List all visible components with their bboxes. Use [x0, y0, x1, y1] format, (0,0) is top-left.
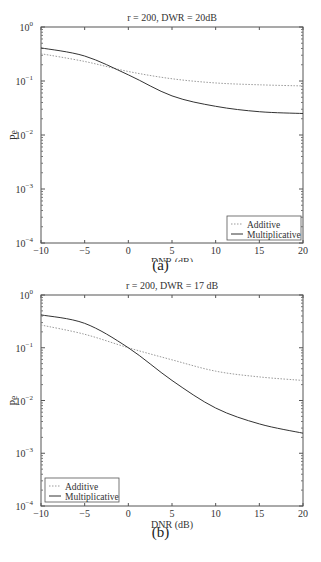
x-tick-label: 10: [211, 245, 221, 256]
y-tick-label: 10−4: [16, 236, 34, 249]
x-tick-label: −10: [33, 245, 49, 256]
y-axis-label: Pe: [8, 129, 19, 140]
chart-a: r = 200, DWR = 20dB−10−50510152010010−11…: [0, 0, 321, 262]
caption-b: (b): [0, 524, 321, 541]
x-tick-label: 15: [254, 508, 264, 519]
legend-label: Additive: [65, 482, 98, 492]
y-tick-label: 10−4: [16, 499, 34, 512]
x-tick-label: 20: [298, 508, 308, 519]
series-multiplicative: [41, 48, 303, 114]
x-tick-label: 15: [254, 245, 264, 256]
x-tick-label: −5: [79, 508, 90, 519]
chart-b: r = 200, DWR = 17 dB−10−50510152010010−1…: [0, 268, 321, 530]
x-tick-label: 0: [126, 508, 131, 519]
x-tick-label: 5: [170, 508, 175, 519]
legend-label: Multiplicative: [65, 492, 119, 502]
x-tick-label: 10: [211, 508, 221, 519]
figure-a: r = 200, DWR = 20dB−10−50510152010010−11…: [0, 0, 321, 262]
axes-frame: [41, 295, 303, 506]
y-tick-label: 10−3: [16, 182, 34, 195]
legend: AdditiveMultiplicative: [227, 216, 301, 240]
x-tick-label: −5: [79, 245, 90, 256]
x-tick-label: 0: [126, 245, 131, 256]
y-tick-label: 10−3: [16, 446, 34, 459]
series-multiplicative: [41, 315, 303, 433]
y-axis-label: Pe: [8, 395, 19, 406]
chart-title: r = 200, DWR = 20dB: [127, 12, 217, 23]
x-tick-label: 20: [298, 245, 308, 256]
series-additive: [41, 325, 303, 380]
legend-label: Additive: [247, 220, 280, 230]
y-tick-label: 10−1: [16, 341, 34, 354]
y-tick-label: 10−1: [16, 74, 34, 87]
axes-frame: [41, 27, 303, 243]
legend: AdditiveMultiplicative: [45, 478, 119, 502]
series-additive: [41, 54, 303, 86]
x-tick-label: −10: [33, 508, 49, 519]
legend-label: Multiplicative: [247, 230, 301, 240]
y-tick-label: 100: [20, 288, 34, 301]
x-tick-label: 5: [170, 245, 175, 256]
y-tick-label: 100: [20, 20, 34, 33]
chart-title: r = 200, DWR = 17 dB: [126, 280, 218, 291]
